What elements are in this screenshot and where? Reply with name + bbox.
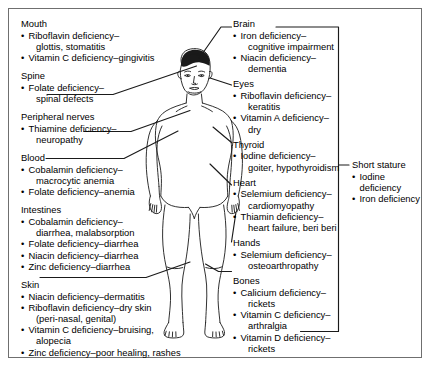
list-item: Riboflavin deficiency–dry skin(peri-nasa… — [21, 302, 193, 324]
annotation-group-skin: Skin Niacin deficiency–dermatitis Ribofl… — [21, 279, 193, 358]
bullet-list-skin: Niacin deficiency–dermatitis Riboflavin … — [21, 291, 193, 358]
bullet-list-peripheral-nerves: Thiamine deficiency–neuropathy — [21, 123, 193, 145]
bullet-list-short-stature: Iodine deficiency Iron deficiency — [352, 171, 424, 205]
annotation-group-eyes: Eyes Riboflavin deficiency–keratitis Vit… — [233, 78, 341, 134]
list-item: Riboflavin deficiency–glottis, stomatiti… — [21, 30, 193, 52]
list-item: Niacin deficiency–diarrhea — [21, 250, 193, 261]
group-title-mouth: Mouth — [21, 18, 193, 30]
list-item: Niacin deficiency–dementia — [233, 52, 341, 74]
bullet-list-heart: Selemium deficiency–cardiomyopathy Thiam… — [233, 188, 341, 233]
list-item: Zinc deficiency–poor healing, rashes — [21, 347, 193, 358]
annotation-group-bones: Bones Calicium deficiency–rickets Vitami… — [233, 275, 341, 354]
annotation-group-heart: Heart Selemium deficiency–cardiomyopathy… — [233, 177, 341, 233]
bullet-list-blood: Cobalamin deficiency–macrocytic anemia F… — [21, 164, 193, 198]
annotation-group-peripheral-nerves: Peripheral nerves Thiamine deficiency–ne… — [21, 111, 193, 145]
list-item: Iodine deficiency–goiter, hypothyroidism — [233, 150, 341, 172]
bullet-list-intestines: Cobalamin deficiency–diarrhea, malabsorp… — [21, 216, 193, 272]
annotation-group-mouth: Mouth Riboflavin deficiency–glottis, sto… — [21, 18, 193, 63]
group-title-peripheral-nerves: Peripheral nerves — [21, 111, 193, 123]
list-item: Vitamin C deficiency–bruising,alopecia — [21, 324, 193, 346]
annotation-group-short-stature: Short stature Iodine deficiency Iron def… — [352, 159, 424, 204]
bullet-list-brain: Iron deficiency–cognitive impairment Nia… — [233, 30, 341, 75]
list-item: Niacin deficiency–dermatitis — [21, 291, 193, 302]
group-title-brain: Brain — [233, 18, 341, 30]
list-item: Thiamine deficiency–neuropathy — [21, 123, 193, 145]
list-item: Vitamin C deficiency–arthralgia — [233, 309, 341, 331]
list-item: Cobalamin deficiency–diarrhea, malabsorp… — [21, 216, 193, 238]
group-title-heart: Heart — [233, 177, 341, 189]
group-title-hands: Hands — [233, 237, 341, 249]
group-title-spine: Spine — [21, 70, 193, 82]
bullet-list-hands: Selemium deficiency–osteoarthropathy — [233, 249, 341, 271]
list-item: Folate deficiency–anemia — [21, 186, 193, 197]
list-item: Vitamin D deficiency–rickets — [233, 332, 341, 354]
list-item: Thiamin deficiency–heart failure, beri b… — [233, 211, 341, 233]
list-item: Vitamin C deficiency–gingivitis — [21, 52, 193, 63]
bullet-list-mouth: Riboflavin deficiency–glottis, stomatiti… — [21, 30, 193, 64]
list-item: Iodine deficiency — [352, 171, 424, 193]
list-item: Iron deficiency–cognitive impairment — [233, 30, 341, 52]
list-item: Zinc deficiency–diarrhea — [21, 261, 193, 272]
left-annotation-column: Mouth Riboflavin deficiency–glottis, sto… — [21, 18, 193, 364]
list-item: Folate deficiency–spinal defects — [21, 82, 193, 104]
group-title-bones: Bones — [233, 275, 341, 287]
annotation-group-hands: Hands Selemium deficiency–osteoarthropat… — [233, 237, 341, 271]
annotation-group-blood: Blood Cobalamin deficiency–macrocytic an… — [21, 152, 193, 197]
group-title-blood: Blood — [21, 152, 193, 164]
list-item: Iron deficiency — [352, 193, 424, 204]
list-item: Riboflavin deficiency–keratitis — [233, 90, 341, 112]
annotation-group-spine: Spine Folate deficiency–spinal defects — [21, 70, 193, 104]
annotation-group-intestines: Intestines Cobalamin deficiency–diarrhea… — [21, 204, 193, 272]
group-title-skin: Skin — [21, 279, 193, 291]
group-title-intestines: Intestines — [21, 204, 193, 216]
bullet-list-spine: Folate deficiency–spinal defects — [21, 82, 193, 104]
group-title-thyroid: Thyroid — [233, 139, 341, 151]
diagram-page: Mouth Riboflavin deficiency–glottis, sto… — [0, 0, 432, 368]
list-item: Selemium deficiency–cardiomyopathy — [233, 188, 341, 210]
list-item: Selemium deficiency–osteoarthropathy — [233, 249, 341, 271]
list-item: Folate deficiency–diarrhea — [21, 238, 193, 249]
group-title-short-stature: Short stature — [352, 159, 424, 171]
group-title-eyes: Eyes — [233, 78, 341, 90]
bullet-list-bones: Calicium deficiency–rickets Vitamin C de… — [233, 287, 341, 354]
bullet-list-eyes: Riboflavin deficiency–keratitis Vitamin … — [233, 90, 341, 135]
right-annotation-column: Brain Iron deficiency–cognitive impairme… — [233, 18, 341, 361]
list-item: Vitamin A deficiency–dry — [233, 112, 341, 134]
list-item: Cobalamin deficiency–macrocytic anemia — [21, 164, 193, 186]
bullet-list-thyroid: Iodine deficiency–goiter, hypothyroidism — [233, 150, 341, 172]
list-item: Calicium deficiency–rickets — [233, 287, 341, 309]
annotation-group-thyroid: Thyroid Iodine deficiency–goiter, hypoth… — [233, 139, 341, 173]
annotation-group-brain: Brain Iron deficiency–cognitive impairme… — [233, 18, 341, 74]
